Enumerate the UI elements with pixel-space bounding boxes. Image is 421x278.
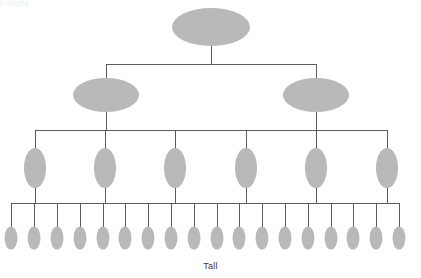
node-level3-4[interactable] [235, 148, 257, 188]
node-level2-1[interactable] [73, 78, 139, 112]
connector-layer [11, 46, 399, 228]
figure-canvas: FIGURE [0, 0, 421, 278]
node-level3-3[interactable] [164, 148, 186, 188]
node-leaf-4[interactable] [74, 227, 87, 250]
node-leaf-16[interactable] [347, 227, 360, 250]
level-1-nodes [172, 8, 250, 46]
node-leaf-11[interactable] [233, 227, 246, 250]
node-leaf-8[interactable] [165, 227, 178, 250]
node-leaf-1[interactable] [5, 227, 18, 250]
level-3-nodes [24, 148, 398, 188]
node-leaf-9[interactable] [188, 227, 201, 250]
node-level3-1[interactable] [24, 148, 46, 188]
node-leaf-17[interactable] [370, 227, 383, 250]
node-leaf-2[interactable] [28, 227, 41, 250]
node-leaf-13[interactable] [279, 227, 292, 250]
node-level3-6[interactable] [376, 148, 398, 188]
node-leaf-5[interactable] [97, 227, 110, 250]
node-leaf-12[interactable] [256, 227, 269, 250]
node-leaf-3[interactable] [51, 227, 64, 250]
node-leaf-18[interactable] [393, 227, 406, 250]
node-level2-2[interactable] [283, 78, 349, 112]
node-leaf-15[interactable] [325, 227, 338, 250]
level-2-nodes [73, 78, 349, 112]
node-leaf-7[interactable] [142, 227, 155, 250]
node-level3-5[interactable] [305, 148, 327, 188]
hierarchy-tree-diagram [0, 0, 421, 278]
figure-caption: Tall [0, 261, 421, 271]
node-level3-2[interactable] [94, 148, 116, 188]
node-leaf-14[interactable] [302, 227, 315, 250]
level-4-nodes [5, 227, 406, 250]
node-level1-1[interactable] [172, 8, 250, 46]
node-leaf-10[interactable] [211, 227, 224, 250]
node-leaf-6[interactable] [119, 227, 132, 250]
